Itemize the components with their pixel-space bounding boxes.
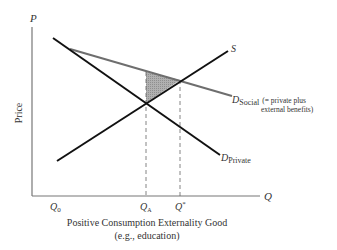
q0-label: Q0 (50, 201, 61, 214)
demand-social-note-line2: external benefits) (261, 105, 314, 114)
y-axis-label: Price (13, 102, 24, 123)
demand-private-label: DPrivate (220, 152, 251, 165)
x-axis-label-line2: (e.g., education) (115, 230, 180, 242)
externality-diagram: P Q Price S DSocial(= private plus exter… (0, 0, 337, 250)
supply-label: S (231, 43, 236, 54)
x-axis-symbol: Q (264, 190, 272, 202)
y-axis-symbol: P (29, 12, 37, 24)
supply-curve (57, 51, 228, 161)
demand-private-curve (53, 38, 220, 155)
qa-label: QA (140, 201, 152, 213)
x-axis-label-line1: Positive Consumption Externality Good (67, 217, 227, 228)
qstar-label: Q* (175, 200, 186, 212)
